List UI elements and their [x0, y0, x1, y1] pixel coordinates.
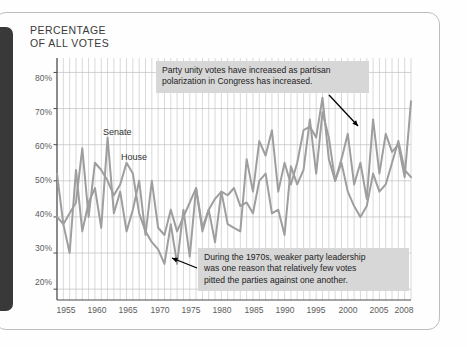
series-label-house: House: [121, 152, 147, 162]
chart-svg: [0, 0, 467, 347]
x-tick-label-2008: 2008: [384, 305, 424, 315]
callout-polarization: Party unity votes have increased as part…: [156, 61, 369, 93]
y-tick-label-80: 80%: [24, 73, 52, 83]
y-tick-label-40: 40%: [24, 209, 52, 219]
chart-container: 80% 70% 60% 50% 40% 30% 20% 1955 1960 19…: [0, 0, 467, 347]
y-tick-label-70: 70%: [24, 107, 52, 117]
y-tick-label-30: 30%: [24, 243, 52, 253]
page-canvas: PERCENTAGE OF ALL VOTES 80% 70% 60% 50% …: [0, 0, 467, 347]
y-tick-label-50: 50%: [24, 175, 52, 185]
y-tick-label-60: 60%: [24, 141, 52, 151]
y-tick-label-20: 20%: [24, 277, 52, 287]
callout-1970s: During the 1970s, weaker party leadershi…: [198, 248, 409, 291]
series-label-senate: Senate: [103, 127, 132, 137]
